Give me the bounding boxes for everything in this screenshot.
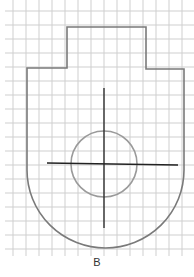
- diagram-canvas: [0, 0, 194, 277]
- grid: [5, 0, 194, 256]
- figure-label: B: [0, 256, 194, 268]
